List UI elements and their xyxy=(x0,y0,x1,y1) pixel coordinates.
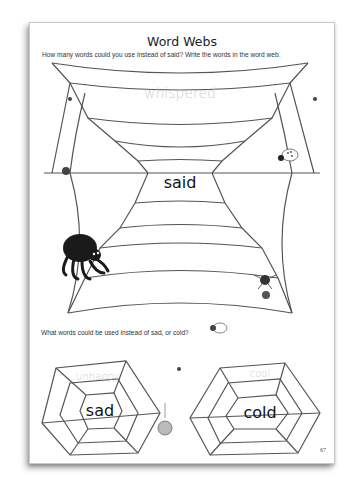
center-word-said: said xyxy=(140,173,220,192)
white-spider-icon xyxy=(210,323,227,333)
small-spider-icon xyxy=(62,167,70,175)
spider-with-ball-icon xyxy=(254,275,276,299)
hanging-spider-icon xyxy=(158,403,172,435)
center-word-cold: cold xyxy=(230,403,290,422)
worksheet-page: Word Webs How many words could you use i… xyxy=(29,22,335,464)
spotted-spider-icon xyxy=(278,149,298,161)
page-number: 67 xyxy=(320,447,326,453)
large-black-spider-icon xyxy=(63,234,108,279)
center-word-sad: sad xyxy=(70,401,130,420)
example-word-sad: unhappy xyxy=(68,371,128,382)
example-word-said: whispered xyxy=(120,85,240,101)
example-word-cold: cool xyxy=(230,368,290,379)
secondary-instruction: What words could be used instead of sad,… xyxy=(41,329,189,336)
